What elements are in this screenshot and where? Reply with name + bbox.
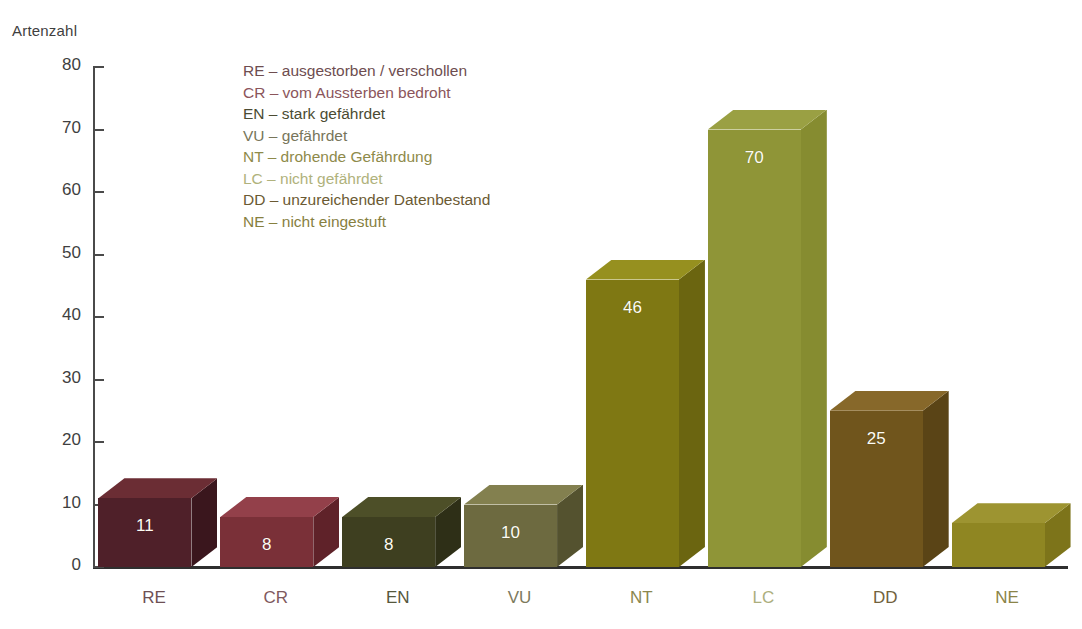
- y-tick-label: 30: [62, 368, 81, 388]
- legend-item-vu: VU – gefährdet: [243, 125, 490, 147]
- bar-side-face: [923, 391, 949, 567]
- bar-value-label: 8: [342, 535, 435, 555]
- bar-vu[interactable]: 10: [464, 485, 583, 568]
- x-axis-label-en: EN: [337, 588, 459, 608]
- bar-front-face: [708, 130, 801, 568]
- bar-ne[interactable]: [952, 503, 1071, 567]
- plot-area: 01020304050607080 118810467025: [93, 67, 1068, 567]
- x-axis-label-lc: LC: [702, 588, 824, 608]
- y-tick-label: 80: [62, 55, 81, 75]
- legend-item-re: RE – ausgestorben / verschollen: [243, 60, 490, 82]
- y-tick-label: 20: [62, 430, 81, 450]
- bar-front-face: [586, 280, 679, 568]
- bar-side-face: [801, 110, 827, 568]
- y-tick-label: 70: [62, 118, 81, 138]
- y-tick-label: 40: [62, 305, 81, 325]
- y-axis-title: Artenzahl: [12, 22, 77, 39]
- x-axis-label-dd: DD: [824, 588, 946, 608]
- legend-item-en: EN – stark gefährdet: [243, 103, 490, 125]
- legend-item-ne: NE – nicht eingestuft: [243, 211, 490, 233]
- x-axis-label-vu: VU: [459, 588, 581, 608]
- bar-dd[interactable]: 25: [830, 391, 949, 567]
- bar-re[interactable]: 11: [98, 478, 217, 567]
- bar-front-face: [952, 523, 1045, 567]
- bar-nt[interactable]: 46: [586, 260, 705, 568]
- y-tick-label: 0: [72, 555, 81, 575]
- bar-lc[interactable]: 70: [708, 110, 827, 568]
- bar-value-label: 46: [586, 298, 679, 318]
- y-tick-label: 60: [62, 180, 81, 200]
- bar-value-label: 11: [98, 516, 191, 536]
- x-axis-label-cr: CR: [215, 588, 337, 608]
- bar-side-face: [679, 260, 705, 568]
- bar-value-label: 10: [464, 523, 557, 543]
- legend-item-dd: DD – unzureichender Datenbestand: [243, 189, 490, 211]
- x-axis-label-re: RE: [93, 588, 215, 608]
- legend-item-nt: NT – drohende Gefährdung: [243, 146, 490, 168]
- legend-item-lc: LC – nicht gefährdet: [243, 168, 490, 190]
- legend-item-cr: CR – vom Aussterben bedroht: [243, 82, 490, 104]
- bar-series: 118810467025: [93, 67, 1068, 567]
- legend: RE – ausgestorben / verschollenCR – vom …: [243, 60, 490, 232]
- bar-cr[interactable]: 8: [220, 497, 339, 567]
- bar-value-label: 8: [220, 535, 313, 555]
- x-axis-label-nt: NT: [581, 588, 703, 608]
- y-tick-label: 50: [62, 243, 81, 263]
- bar-value-label: 70: [708, 148, 801, 168]
- bar-en[interactable]: 8: [342, 497, 461, 567]
- x-axis-label-ne: NE: [946, 588, 1068, 608]
- y-tick-label: 10: [62, 493, 81, 513]
- bar-value-label: 25: [830, 429, 923, 449]
- bar-chart: Artenzahl 01020304050607080 118810467025…: [0, 0, 1082, 629]
